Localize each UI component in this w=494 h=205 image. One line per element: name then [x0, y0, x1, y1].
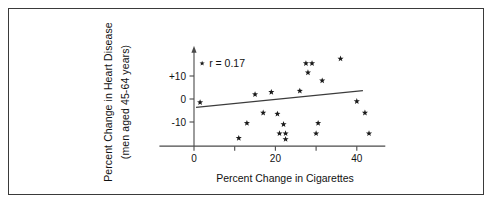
data-point-7 [276, 130, 282, 136]
data-point-4 [260, 110, 266, 116]
regression-line-segment [196, 91, 363, 108]
data-point-8 [281, 121, 287, 127]
data-point-21 [366, 130, 372, 136]
data-point-14 [309, 60, 315, 66]
data-point-15 [313, 130, 319, 136]
annotation-star-icon [200, 61, 205, 66]
data-point-1 [236, 135, 242, 141]
data-point-19 [354, 98, 360, 104]
data-point-9 [283, 130, 289, 136]
data-point-5 [268, 89, 274, 95]
axes: -100+1002040 [159, 46, 385, 164]
y-tick-label-0: 0 [180, 94, 186, 105]
data-point-12 [303, 60, 309, 66]
data-point-16 [315, 120, 321, 126]
plot-svg: -100+1002040 r = 0.17 [0, 0, 494, 205]
data-point-6 [274, 111, 280, 117]
data-point-3 [252, 91, 258, 97]
data-point-13 [305, 69, 311, 75]
regression-line [196, 91, 363, 108]
data-point-18 [337, 56, 343, 62]
data-point-2 [244, 120, 250, 126]
x-tick-label-0: 0 [191, 153, 197, 164]
x-tick-label-20: 20 [270, 153, 282, 164]
y-tick-label-10: +10 [169, 71, 186, 82]
figure-screenshot: Percent Change in Heart Disease (men age… [0, 0, 494, 205]
data-point-10 [283, 136, 289, 142]
data-point-20 [362, 110, 368, 116]
data-point-17 [319, 77, 325, 83]
y-tick-label--10: -10 [172, 117, 187, 128]
correlation-label: r = 0.17 [209, 57, 245, 69]
x-tick-label-40: 40 [351, 153, 363, 164]
data-point-0 [197, 99, 203, 105]
data-point-11 [297, 88, 303, 94]
correlation-annotation: r = 0.17 [200, 57, 246, 69]
scatter-plot: -100+1002040 r = 0.17 [0, 0, 494, 205]
y-axis-arrow-icon [191, 46, 196, 53]
